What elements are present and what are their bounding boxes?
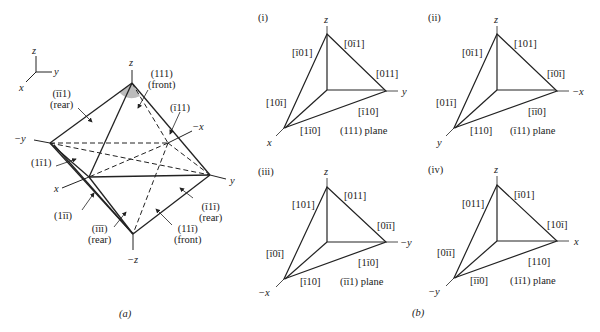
axis-right-label: −y (400, 237, 412, 248)
legend-z-label: z (32, 45, 36, 56)
plane-m1m1m1-label: (īīī)(rear) (88, 223, 111, 245)
panel-tag: (i) (258, 12, 268, 23)
dir-right-down: [ī0ī] (547, 68, 565, 79)
caption-b: (b) (412, 307, 424, 318)
axis-top-label: z (494, 164, 498, 175)
axis-right-label: −x (572, 86, 584, 97)
vertex-neg-z-label: −z (127, 254, 138, 265)
vertex-neg-y-label: −y (14, 133, 26, 144)
dir-left-up: [0ī1] (462, 47, 482, 58)
caption-a: (a) (119, 308, 131, 319)
panel-i-drawing (276, 26, 398, 136)
panel-iii-drawing (276, 178, 398, 287)
panel-ii-drawing (446, 26, 569, 136)
legend-y-label: y (54, 66, 59, 77)
dir-bottom-left: [ī10] (300, 276, 320, 287)
dir-left-up: [101] (292, 199, 315, 210)
dir-right-up: [ī01] (514, 189, 534, 200)
dir-bottom-left: [110] (470, 125, 492, 136)
axes-legend (26, 56, 52, 82)
plane-m11m1-label: (ī1ī)(rear) (199, 201, 222, 223)
axis-left-label: −x (258, 287, 270, 298)
plane-label: (ī11) plane (510, 125, 555, 136)
dir-right-down: [0īī] (377, 220, 395, 231)
panel-tag: (iii) (258, 166, 274, 177)
dir-bottom-right: [110] (528, 256, 550, 267)
plane-label: (1ī1) plane (510, 275, 556, 286)
dir-bottom-left: [īī0] (470, 275, 488, 286)
dir-right-down: [10ī] (547, 219, 567, 230)
dir-left-up: [011] (462, 198, 484, 209)
plane-label: (īī1) plane (340, 276, 383, 287)
dir-left-down: [0īī] (437, 247, 455, 258)
plane-label: (111) plane (340, 125, 387, 136)
dir-right-up: [0ī1] (344, 38, 364, 49)
plane-1m1m1-label: (1īī) (54, 210, 72, 221)
dir-bottom-right: [1ī0] (358, 257, 378, 268)
plane-11m1-label: (11ī)(front) (174, 223, 201, 245)
plane-m1m11-label: (īī1)(rear) (50, 88, 73, 110)
axis-right-label: x (574, 236, 579, 247)
dir-left-up: [ī01] (292, 47, 312, 58)
vertex-y-label: y (230, 175, 235, 186)
panel-tag: (ii) (428, 12, 441, 23)
dir-left-down: [01ī] (436, 97, 456, 108)
axis-right-label: y (402, 86, 407, 97)
dir-left-down: [10ī] (266, 97, 286, 108)
plane-111-label: (111)(front) (148, 68, 175, 90)
dir-left-down: [ī0ī] (266, 248, 284, 259)
dir-bottom-right: [ī10] (358, 106, 378, 117)
panel-tag: (iv) (428, 164, 443, 175)
plane-1m11-label: (1ī1) (31, 157, 51, 168)
dir-right-up: [011] (344, 190, 366, 201)
axis-left-label: y (437, 137, 442, 148)
axis-top-label: z (324, 166, 328, 177)
panel-iv-drawing (446, 176, 569, 286)
legend-x-label: x (19, 82, 24, 93)
axis-top-label: z (324, 14, 328, 25)
dir-bottom-left: [1ī0] (300, 125, 320, 136)
plane-m111-label: (ī11) (170, 102, 190, 113)
axis-left-label: x (267, 137, 272, 148)
axis-top-label: z (494, 14, 498, 25)
dir-right-up: [101] (514, 38, 537, 49)
vertex-z-label: z (129, 57, 133, 68)
axis-left-label: −y (428, 286, 440, 297)
vertex-neg-x-label: −x (192, 121, 204, 132)
vertex-x-label: x (54, 183, 59, 194)
dir-right-down: [011] (376, 68, 398, 79)
dir-bottom-right: [īī0] (528, 106, 546, 117)
